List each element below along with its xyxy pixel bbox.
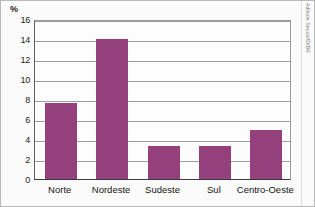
x-axis-tick-label: Sul — [207, 184, 221, 195]
y-axis-tick-label: 12 — [2, 55, 30, 65]
bars-group — [35, 21, 290, 179]
y-axis-tick-label: 14 — [2, 35, 30, 45]
x-axis-tick-label: Norte — [48, 184, 71, 195]
bar-chart-figure: % 0246810121416 NorteNordesteSudesteSulC… — [0, 0, 315, 207]
credit-text: Adilson Secco/ID/BR — [305, 3, 311, 53]
y-axis-tick-label: 0 — [2, 175, 30, 185]
y-axis-tick-label: 16 — [2, 15, 30, 25]
bar — [199, 146, 231, 180]
y-axis-tick-label: 4 — [2, 135, 30, 145]
credit-watermark: Adilson Secco/ID/BR — [302, 3, 313, 95]
y-axis-tick-label: 10 — [2, 75, 30, 85]
y-axis-unit-label: % — [10, 4, 18, 14]
bar — [148, 146, 180, 179]
x-axis-tick-label: Nordeste — [92, 184, 131, 195]
y-axis-tick-label: 6 — [2, 115, 30, 125]
bar — [96, 39, 128, 179]
y-axis-tick-labels: 0246810121416 — [1, 20, 30, 180]
plot-area — [34, 20, 291, 180]
bar — [250, 130, 282, 179]
y-axis-tick-label: 2 — [2, 155, 30, 165]
x-axis-tick-label: Centro-Oeste — [237, 184, 294, 195]
x-axis-category-labels: NorteNordesteSudesteSulCentro-Oeste — [34, 182, 291, 204]
bar — [45, 103, 77, 179]
x-axis-tick-label: Sudeste — [145, 184, 180, 195]
y-axis-tick-label: 8 — [2, 95, 30, 105]
